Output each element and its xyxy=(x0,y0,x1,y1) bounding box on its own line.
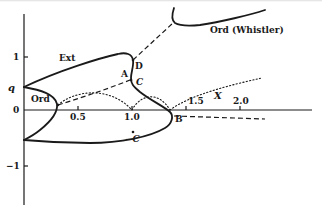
point-label-c: C xyxy=(136,78,143,87)
branch-label-ord-whistler: Ord (Whistler) xyxy=(210,26,284,35)
dashed-line-c-to-whistler xyxy=(133,23,173,60)
point-label-b: B xyxy=(175,115,183,124)
x-tick-label-2.0: 2.0 xyxy=(233,97,249,106)
point-label-minus-c: −C xyxy=(125,135,140,144)
y-tick-label-1: 1 xyxy=(13,53,19,62)
x-tick-label-1.0: 1.0 xyxy=(124,113,140,122)
ord-whistler-curve xyxy=(172,8,265,26)
x-tick-label-0.5: 0.5 xyxy=(70,113,86,122)
dashed-line-from-b xyxy=(174,116,265,119)
marker-minus-c xyxy=(132,131,135,134)
x-axis-variable-label: X xyxy=(214,91,222,101)
marker-origin-ord xyxy=(57,104,60,107)
x-tick-label-1.5: 1.5 xyxy=(188,97,204,106)
branch-label-ext: Ext xyxy=(59,54,75,63)
y-label-q: q xyxy=(8,83,15,93)
point-label-a: A xyxy=(121,70,128,79)
branch-label-ord: Ord xyxy=(31,95,50,104)
y-tick-label-minus1: −1 xyxy=(6,162,20,171)
marker-c xyxy=(130,79,133,82)
marker-d xyxy=(132,59,135,62)
point-label-d: D xyxy=(135,62,143,71)
y-tick-label-0: 0 xyxy=(13,106,19,115)
